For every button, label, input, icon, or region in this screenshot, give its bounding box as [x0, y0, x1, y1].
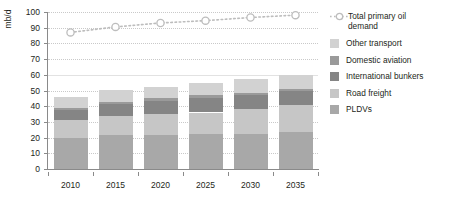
x-axis-tick-mark [273, 172, 274, 176]
oil-demand-chart: mb/d 0102030405060708090100 201020152020… [0, 0, 452, 206]
legend-item[interactable]: Total primary oil demand [330, 11, 450, 31]
legend-item[interactable]: Domestic aviation [330, 55, 450, 65]
legend-item[interactable]: Other transport [330, 38, 450, 48]
line-marker[interactable] [247, 14, 254, 21]
x-axis-tick-mark [48, 172, 49, 176]
legend-label: Road freight [346, 88, 391, 98]
y-axis-tick-label: 0 [35, 164, 40, 174]
y-axis-tick-label: 90 [31, 23, 40, 33]
y-axis-tick-label: 10 [31, 148, 40, 158]
legend-label: Total primary oil demand [348, 11, 406, 31]
line-marker[interactable] [202, 17, 209, 24]
legend-swatch [330, 89, 339, 98]
line-marker[interactable] [292, 12, 299, 19]
legend-swatch [330, 39, 339, 48]
x-axis-label: 2010 [49, 180, 93, 190]
legend-item[interactable]: International bunkers [330, 71, 450, 81]
line-marker[interactable] [112, 23, 119, 30]
y-axis-tick-label: 40 [31, 101, 40, 111]
legend-label: Domestic aviation [346, 55, 411, 65]
legend-label: PLDVs [346, 104, 372, 114]
legend-item[interactable]: Road freight [330, 88, 450, 98]
y-axis-tick-label: 50 [31, 86, 40, 96]
x-axis-label: 2015 [94, 180, 138, 190]
legend-label: Other transport [346, 38, 402, 48]
x-axis-label: 2030 [229, 180, 273, 190]
y-axis-ticks: 0102030405060708090100 [0, 12, 48, 169]
y-axis-tick-label: 60 [31, 70, 40, 80]
legend-label: International bunkers [346, 71, 424, 81]
legend-swatch [330, 72, 339, 81]
legend-item[interactable]: PLDVs [330, 104, 450, 114]
x-axis-label: 2020 [139, 180, 183, 190]
legend-swatch [330, 105, 339, 114]
x-axis-label: 2025 [184, 180, 228, 190]
x-axis-label: 2035 [274, 180, 318, 190]
total-demand-line [48, 12, 318, 169]
line-marker[interactable] [157, 19, 164, 26]
line-series-layer [48, 12, 318, 169]
x-axis-labels: 201020152020202520302035 [48, 172, 318, 194]
total-demand-path [71, 15, 296, 32]
x-axis-tick-mark [318, 172, 319, 176]
x-axis-line [47, 169, 319, 170]
x-axis-tick-mark [183, 172, 184, 176]
y-axis-tick-label: 100 [26, 7, 40, 17]
y-axis-tick-label: 20 [31, 133, 40, 143]
chart-legend: Total primary oil demandOther transportD… [330, 11, 450, 121]
x-axis-tick-mark [93, 172, 94, 176]
line-marker[interactable] [67, 29, 74, 36]
x-axis-tick-mark [138, 172, 139, 176]
legend-swatch [330, 56, 339, 65]
plot-area [48, 12, 318, 169]
x-axis-tick-mark [228, 172, 229, 176]
legend-line-marker-icon [330, 12, 339, 21]
y-axis-tick-label: 70 [31, 54, 40, 64]
y-axis-tick-label: 80 [31, 38, 40, 48]
y-axis-tick-label: 30 [31, 117, 40, 127]
